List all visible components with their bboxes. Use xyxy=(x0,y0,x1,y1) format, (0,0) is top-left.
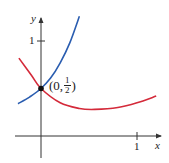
point-label: (0, 1 2 ) xyxy=(49,76,76,95)
red-curve xyxy=(19,58,156,109)
point-label-close: ) xyxy=(72,79,76,92)
y-axis-label: y xyxy=(31,13,36,24)
point-label-open: (0, xyxy=(49,79,63,92)
point-label-fraction: 1 2 xyxy=(64,76,71,95)
y-tick-label: 1 xyxy=(29,35,35,46)
chart-plot-area xyxy=(0,0,169,163)
intersection-point xyxy=(38,86,44,92)
x-axis-label: x xyxy=(155,140,160,151)
x-tick-label: 1 xyxy=(134,141,140,152)
fraction-denominator: 2 xyxy=(65,86,70,95)
